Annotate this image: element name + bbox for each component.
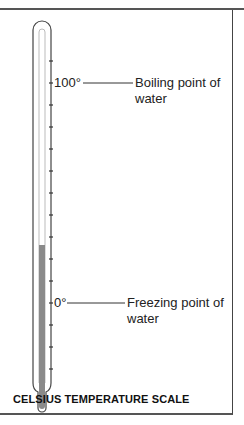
figure-caption: CELSIUS TEMPERATURE SCALE <box>13 393 189 405</box>
mercury-column <box>39 245 45 387</box>
boiling-point-value: 100° <box>54 75 81 91</box>
thermometer <box>0 0 244 425</box>
freezing-point-label-line1: Freezing point of <box>127 295 224 311</box>
freezing-point-label-line2: water <box>127 311 159 327</box>
boiling-point-label-line2: water <box>135 91 167 107</box>
freezing-point-value: 0° <box>54 295 66 311</box>
boiling-point-label-line1: Boiling point of <box>135 75 220 91</box>
